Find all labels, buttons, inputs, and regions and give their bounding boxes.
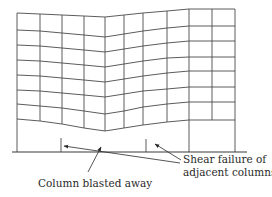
floor-beam-6 (17, 87, 235, 97)
shear-failure-label-line2: adjacent columns (183, 166, 272, 179)
column-blasted-away-label: Column blasted away (38, 177, 152, 190)
floor-beam-5 (17, 71, 235, 82)
building-frame-grid (17, 9, 235, 152)
floor-beam-2 (17, 26, 235, 37)
floor-beam-7 (17, 102, 235, 114)
floor-beam-1 (17, 9, 235, 17)
annotation-arrows (64, 144, 181, 172)
floor-beam-3 (17, 41, 235, 52)
damaged-column-stubs (61, 138, 146, 152)
floor-beam-4 (17, 57, 235, 67)
floor-beam-8 (17, 119, 235, 131)
shear-failure-label-line1: Shear failure of (183, 153, 266, 166)
